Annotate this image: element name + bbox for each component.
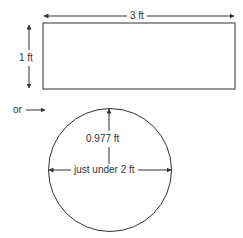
width-label: 3 ft [127,10,147,22]
height-label: 1 ft [19,50,33,66]
rectangle-shape [43,23,235,89]
radius-label: 0.977 ft [86,131,119,147]
diagram-canvas [0,0,243,238]
or-label: or [13,104,22,116]
diameter-label: just under 2 ft [71,164,138,176]
